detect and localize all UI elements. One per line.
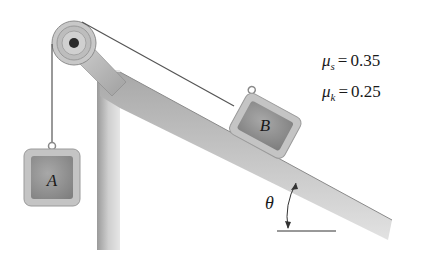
mu-static: μs=0.35: [321, 51, 380, 72]
friction-coefficients: μs=0.35 μk=0.25: [321, 51, 381, 103]
block-b-label: B: [260, 116, 271, 135]
theta-label: θ: [265, 193, 274, 213]
mu-kinetic: μk=0.25: [321, 82, 381, 103]
mechanics-diagram: A B θ μs=0.35 μk=0.25: [0, 0, 424, 257]
block-a-label: A: [46, 171, 58, 190]
block-a: A: [24, 143, 80, 207]
pulley: [52, 21, 96, 65]
